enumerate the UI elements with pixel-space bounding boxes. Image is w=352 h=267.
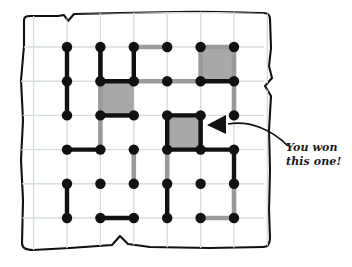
grid-dot-r3c6 (229, 110, 239, 120)
grid-dot-r2c4 (162, 76, 172, 86)
annotation-line-1: You won (286, 141, 348, 155)
grid-dot-r5c3 (129, 179, 139, 189)
grid-dot-r4c3 (129, 144, 139, 154)
grid-dot-r1c3 (129, 42, 139, 52)
grid-dot-r3c4 (162, 110, 172, 120)
grid-dot-r4c2 (95, 144, 105, 154)
grid-dot-r5c2 (95, 179, 105, 189)
grid-dot-r4c1 (62, 144, 72, 154)
grid-dot-r5c4 (162, 179, 172, 189)
grid-dot-r4c5 (195, 144, 205, 154)
grid-dot-r5c6 (229, 179, 239, 189)
grid-dot-r3c5 (195, 110, 205, 120)
grid-dot-r4c6 (229, 144, 239, 154)
dots-and-boxes-board (0, 0, 352, 267)
grid-dot-r3c2 (95, 110, 105, 120)
grid-dot-r1c5 (195, 42, 205, 52)
annotation-text: You won this one! (286, 141, 348, 168)
grid-dot-r2c5 (195, 76, 205, 86)
grid-dot-r2c3 (129, 76, 139, 86)
grid-dot-r3c3 (129, 110, 139, 120)
annotation-line-2: this one! (286, 155, 348, 169)
figure-stage: You won this one! (0, 0, 352, 267)
grid-dot-r6c2 (95, 213, 105, 223)
grid-dot-r6c5 (195, 213, 205, 223)
box-r2c2 (100, 81, 133, 115)
grid-dot-r6c3 (129, 213, 139, 223)
grid-dot-r2c1 (62, 76, 72, 86)
grid-dot-r6c4 (162, 213, 172, 223)
grid-dot-r3c1 (62, 110, 72, 120)
grid-dot-r1c6 (229, 42, 239, 52)
grid-dot-r5c1 (62, 179, 72, 189)
grid-dot-r1c1 (62, 42, 72, 52)
grid-dot-r4c4 (162, 144, 172, 154)
box-r3c4 (167, 115, 200, 149)
grid-dot-r2c6 (229, 76, 239, 86)
grid-dot-r2c2 (95, 76, 105, 86)
box-r1c5 (201, 47, 234, 81)
grid-dot-r1c2 (95, 42, 105, 52)
grid-dot-r6c1 (62, 213, 72, 223)
grid-dot-r6c6 (229, 213, 239, 223)
grid-dot-r1c4 (162, 42, 172, 52)
grid-dot-r5c5 (195, 179, 205, 189)
